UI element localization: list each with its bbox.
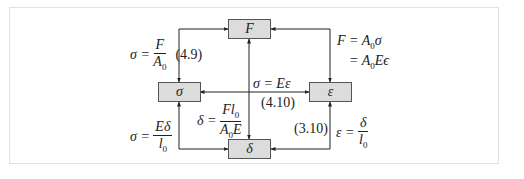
fraction: δ l0 [358,116,369,150]
numerator: F [154,38,167,54]
den-sub: 0 [163,144,168,154]
eq-line2-lhs: = A [349,53,370,68]
node-stress-label: σ [176,84,183,100]
eq-lhs: ε = [336,126,354,140]
eq-lhs: σ = [130,48,150,62]
eq-line1-lhs: F = A [337,33,370,48]
eq-lhs: σ = [130,130,150,144]
eq-hookes-law: σ = Eε [253,77,290,91]
eq-ref-4-9: (4.9) [175,48,202,62]
eq-line2-rhs: Eϵ [375,53,389,68]
denominator: A0 [153,54,166,72]
eq-force-from-stress: F = A0σ = A0Eϵ [337,34,389,71]
numerator: Fl0 [220,103,241,122]
node-force: F [228,19,271,39]
eq-line1-rhs: σ [375,33,382,48]
fraction: Eδ l0 [153,120,172,154]
den-var: A [153,54,162,69]
denominator: l0 [159,136,167,154]
denominator: l0 [359,132,367,150]
num-sub: 0 [235,110,240,120]
eq-lhs: δ = [197,114,216,128]
eq-strain-from-deformation: ε = δ l0 [336,116,368,150]
eq-ref-3-10: (3.10) [294,122,328,136]
denominator: A0E [220,122,242,140]
numerator: δ [358,116,369,132]
fraction: Fl0 A0E [220,103,242,140]
eq-deformation-from-force: δ = Fl0 A0E [197,103,242,140]
eq-ref-4-10: (4.10) [261,96,295,110]
node-deformation: δ [228,139,271,159]
den-rhs: E [233,122,242,137]
node-strain-label: ε [328,84,334,100]
den-sub: 0 [363,140,368,150]
node-stress: σ [158,82,201,102]
eq-stress-from-force: σ = F A0 (4.9) [130,38,202,72]
node-strain: ε [309,82,352,102]
numerator: Eδ [153,120,172,136]
node-force-label: F [245,21,254,37]
fraction: F A0 [153,38,166,72]
den-sub: 0 [162,62,167,72]
eq-stress-from-deformation: σ = Eδ l0 [130,120,172,154]
den-var: A [220,122,229,137]
node-deformation-label: δ [246,141,253,157]
num-var: Fl [222,102,234,117]
